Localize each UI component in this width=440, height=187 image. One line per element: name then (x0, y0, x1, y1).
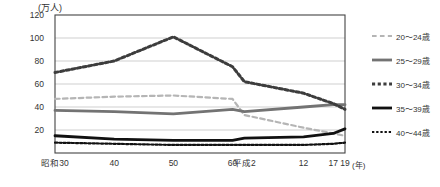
legend-item-label: 30～34歳 (396, 79, 430, 90)
legend-swatch-icon (372, 79, 392, 89)
series-lines (55, 37, 345, 145)
legend-swatch-icon (372, 31, 392, 41)
chart-container: (万人) (年) 20406080100120 昭和30405060平成2121… (0, 0, 440, 187)
legend-swatch-icon (372, 127, 392, 137)
legend-item-label: 35～39歳 (396, 103, 430, 114)
series-line-1 (55, 105, 345, 114)
legend-swatch-icon (372, 103, 392, 113)
legend: 20～24歳25～29歳30～34歳35～39歳40～44歳 (372, 24, 440, 144)
legend-item-4[interactable]: 40～44歳 (372, 120, 440, 144)
legend-swatch-icon (372, 55, 392, 65)
legend-item-label: 40～44歳 (396, 127, 430, 138)
series-line-2 (55, 37, 345, 109)
series-line-4 (55, 143, 345, 145)
legend-item-2[interactable]: 30～34歳 (372, 72, 440, 96)
legend-item-1[interactable]: 25～29歳 (372, 48, 440, 72)
legend-item-label: 25～29歳 (396, 55, 430, 66)
legend-item-0[interactable]: 20～24歳 (372, 24, 440, 48)
legend-item-label: 20～24歳 (396, 31, 430, 42)
series-line-3 (55, 129, 345, 141)
legend-item-3[interactable]: 35～39歳 (372, 96, 440, 120)
